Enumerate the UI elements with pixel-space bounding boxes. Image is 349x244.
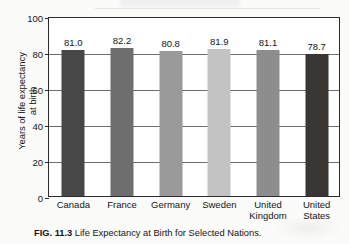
bar [110, 48, 133, 196]
y-tick-label: 40 [32, 121, 43, 132]
bar [305, 54, 328, 196]
bar-group: 81.1United Kingdom [244, 18, 293, 196]
plot-area: 020406080100 81.0Canada82.2France80.8Ger… [48, 17, 340, 197]
bar-group: 81.0Canada [49, 18, 98, 196]
bar-value-label: 80.8 [161, 38, 180, 49]
figure-container: Years of life expectancy at birth 020406… [0, 0, 349, 244]
bar-value-label: 82.2 [113, 35, 132, 46]
figure-caption: FIG. 11.3 Life Expectancy at Birth for S… [34, 228, 261, 238]
x-axis-category-label: United Kingdom [249, 200, 287, 221]
x-axis-category-label: Canada [57, 200, 90, 211]
x-axis-category-label: Germany [151, 200, 190, 211]
y-tick-label: 80 [32, 49, 43, 60]
bar [208, 49, 231, 196]
bar-group: 80.8Germany [146, 18, 195, 196]
bar-value-label: 81.9 [210, 36, 229, 47]
y-tick-label: 20 [32, 157, 43, 168]
bar-value-label: 78.7 [307, 41, 326, 52]
page-bleed-artifact [120, 0, 240, 9]
bar-group: 81.9Sweden [195, 18, 244, 196]
bar-value-label: 81.1 [259, 37, 278, 48]
figure-number: FIG. 11.3 [34, 228, 72, 238]
y-tick-label: 100 [27, 13, 43, 24]
bar [159, 51, 182, 196]
y-tick-label: 60 [32, 85, 43, 96]
x-axis-category-label: Sweden [202, 200, 236, 211]
page-bleed-line-artifact [95, 8, 320, 9]
bar-group: 78.7United States [292, 18, 341, 196]
y-tick-mark [45, 198, 49, 199]
x-axis-category-label: United States [303, 200, 330, 221]
bar-group: 82.2France [98, 18, 147, 196]
y-tick-label: 0 [38, 193, 43, 204]
bar [62, 50, 85, 196]
x-axis-category-label: France [107, 200, 137, 211]
bar-value-label: 81.0 [64, 37, 83, 48]
caption-text: Life Expectancy at Birth for Selected Na… [75, 228, 262, 238]
bar [256, 50, 279, 196]
